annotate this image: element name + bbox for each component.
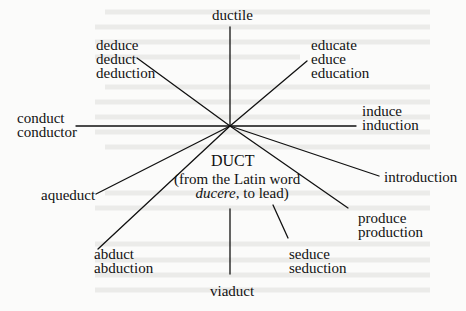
word: deduct: [96, 52, 155, 66]
etymology-line-2: ducere, to lead): [174, 186, 300, 200]
word: viaduct: [210, 284, 254, 298]
label-group-deduce: deduce deduct deduction: [96, 38, 155, 80]
label-group-seduce: seduce seduction: [289, 247, 347, 275]
word: deduction: [96, 66, 155, 80]
label-group-abduct: abduct abduction: [94, 247, 153, 275]
root-label: DUCT: [211, 154, 255, 168]
word: abduction: [94, 261, 153, 275]
latin-word: ducere: [196, 185, 236, 201]
word: seduction: [289, 261, 347, 275]
word: aqueduct: [41, 188, 95, 202]
word: production: [358, 225, 423, 239]
word: conduct: [17, 111, 77, 125]
spoke-upper-right: [230, 61, 307, 126]
etymology-meaning: , to lead): [236, 185, 289, 201]
root-word: DUCT: [211, 154, 255, 168]
word: conductor: [17, 125, 77, 139]
spoke-lower-right-3: [273, 205, 288, 238]
root-etymology: (from the Latin word ducere, to lead): [174, 172, 300, 200]
word: ductile: [212, 8, 253, 22]
etymology-line-1: (from the Latin word: [174, 172, 300, 186]
word: produce: [358, 211, 423, 225]
label-aqueduct: aqueduct: [41, 188, 95, 202]
word: abduct: [94, 247, 153, 261]
label-group-induce: induce induction: [362, 104, 419, 132]
label-group-conduct: conduct conductor: [17, 111, 77, 139]
label-introduction: introduction: [384, 170, 457, 184]
word: seduce: [289, 247, 347, 261]
word: induce: [362, 104, 419, 118]
word: education: [311, 66, 369, 80]
label-group-educate: educate educe education: [311, 38, 369, 80]
word: introduction: [384, 170, 457, 184]
label-ductile: ductile: [212, 8, 253, 22]
word: deduce: [96, 38, 155, 52]
word: educate: [311, 38, 369, 52]
word: induction: [362, 118, 419, 132]
word: educe: [311, 52, 369, 66]
label-viaduct: viaduct: [210, 284, 254, 298]
label-group-produce: produce production: [358, 211, 423, 239]
